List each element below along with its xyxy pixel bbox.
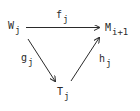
node-m-sub: i+1 [112, 27, 128, 37]
edge-f-sub: j [63, 14, 68, 24]
node-t: Tj [57, 87, 69, 97]
node-t-base: T [57, 86, 63, 97]
edge-f-base: f [56, 9, 62, 20]
edge-h-sub: j [106, 58, 111, 68]
node-w-sub: j [15, 25, 20, 35]
node-m: Mi+1 [105, 23, 128, 33]
edge-label-g: gj [21, 53, 33, 63]
edge-g-sub: j [28, 57, 33, 67]
edge-h-base: h [99, 53, 105, 64]
commutative-diagram: Wj Mi+1 Tj fj gj hj [0, 0, 140, 111]
edge-label-f: fj [56, 10, 68, 20]
edge-g-base: g [21, 52, 27, 63]
node-w-base: W [8, 20, 14, 31]
node-t-sub: j [64, 91, 69, 101]
node-m-base: M [105, 22, 111, 33]
arrow-h-t-to-m [71, 38, 99, 81]
edge-label-h: hj [99, 54, 111, 64]
node-w: Wj [8, 21, 20, 31]
